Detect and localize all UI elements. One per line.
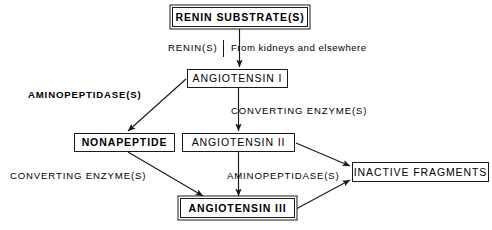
node-nonapeptide[interactable]: NONAPEPTIDE: [74, 133, 175, 152]
node-angiotensin-i-label: ANGIOTENSIN I: [193, 73, 283, 84]
node-renin-substrate[interactable]: RENIN SUBSTRATE(S): [172, 7, 308, 27]
node-nonapeptide-label: NONAPEPTIDE: [82, 137, 168, 148]
node-angiotensin-ii[interactable]: ANGIOTENSIN II: [182, 133, 295, 152]
edge-label-converting-enzyme-left: CONVERTING ENZYME(S): [10, 171, 146, 181]
edge-label-renin-s: RENIN(S): [168, 43, 217, 53]
node-inactive-fragments[interactable]: INACTIVE FRAGMENTS: [352, 162, 489, 182]
edge-angiotensin-i-to-nonapeptide: [128, 79, 186, 131]
edge-label-aminopeptidase-left: AMINOPEPTIDASE(S): [28, 90, 142, 100]
node-angiotensin-ii-label: ANGIOTENSIN II: [192, 137, 286, 148]
edge-label-aminopeptidase-mid: AMINOPEPTIDASE(S): [227, 171, 340, 181]
edge-label-converting-enzyme-mid: CONVERTING ENZYME(S): [231, 106, 367, 116]
edge-angiotensin-iii-to-inactive-fragments: [296, 180, 350, 209]
node-angiotensin-iii[interactable]: ANGIOTENSIN III: [180, 198, 295, 218]
diagram-canvas: RENIN SUBSTRATE(S) ANGIOTENSIN I NONAPEP…: [0, 0, 492, 230]
edge-label-from-kidneys-and-elsewhere: From kidneys and elsewhere: [231, 43, 367, 53]
node-angiotensin-i[interactable]: ANGIOTENSIN I: [187, 69, 288, 88]
node-inactive-fragments-label: INACTIVE FRAGMENTS: [354, 167, 487, 178]
edge-angiotensin-ii-to-inactive-fragments: [296, 143, 350, 166]
renin-annotation-divider: [223, 40, 224, 57]
node-angiotensin-iii-label: ANGIOTENSIN III: [188, 203, 286, 214]
node-renin-substrate-label: RENIN SUBSTRATE(S): [175, 12, 304, 23]
